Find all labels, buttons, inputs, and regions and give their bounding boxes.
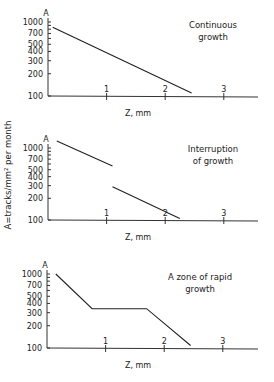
y-tick-label: 500	[28, 40, 43, 49]
y-tick-label: 100	[28, 92, 43, 101]
y-tick-label: 700	[28, 29, 43, 38]
x-axis	[48, 220, 258, 221]
panel-annotation: growth	[185, 284, 215, 294]
x-tick-label: 1	[104, 85, 109, 94]
series-after-interruption	[113, 187, 180, 219]
y-axis-title: A	[43, 135, 49, 144]
chart-panel-1: A1002003004005007001000123Z, mmContinuou…	[23, 9, 258, 118]
x-tick-label: 1	[103, 337, 108, 346]
y-tick-label: 300	[28, 182, 43, 191]
x-tick-label: 3	[220, 337, 225, 346]
y-tick-label: 100	[28, 216, 43, 225]
y-tick-label: 1000	[23, 18, 43, 27]
series-segment-1	[56, 274, 191, 346]
x-tick-label: 2	[162, 337, 167, 346]
x-axis	[48, 96, 258, 97]
series-before-interruption	[57, 141, 113, 166]
x-tick-label: 3	[221, 209, 226, 218]
x-axis-label: Z, mm	[125, 361, 151, 370]
y-tick-label: 1000	[22, 270, 42, 279]
y-axis-title: A	[43, 9, 49, 18]
panel-annotation: growth	[198, 32, 228, 42]
y-tick-label: 100	[27, 344, 42, 353]
panel-annotation: Interruption	[188, 144, 238, 154]
y-tick-label: 500	[28, 166, 43, 175]
x-tick-label: 2	[163, 85, 168, 94]
figure: A=tracks/mm² per month A1002003004005007…	[0, 0, 274, 382]
x-tick-label: 1	[104, 209, 109, 218]
y-tick-label: 200	[28, 194, 43, 203]
y-tick-label: 1000	[23, 144, 43, 153]
y-tick-label: 200	[28, 70, 43, 79]
x-axis-label: Z, mm	[125, 233, 151, 242]
panel-annotation: of growth	[193, 156, 233, 166]
chart-panel-3: A1002003004005007001000123Z, mmA zone of…	[22, 261, 258, 370]
y-axis-title: A	[42, 261, 48, 270]
x-axis	[47, 348, 258, 349]
y-tick-label: 200	[27, 322, 42, 331]
y-tick-label: 700	[28, 155, 43, 164]
series-segment-1	[53, 27, 192, 93]
y-tick-label: 700	[27, 281, 42, 290]
panel-annotation: Continuous	[189, 20, 238, 30]
x-axis-label: Z, mm	[125, 109, 151, 118]
y-axis-label: A=tracks/mm² per month	[3, 121, 13, 230]
y-tick-label: 500	[27, 292, 42, 301]
y-tick-label: 300	[28, 57, 43, 66]
x-tick-label: 3	[221, 85, 226, 94]
y-tick-label: 300	[27, 309, 42, 318]
chart-panel-2: A1002003004005007001000123Z, mmInterrupt…	[23, 135, 258, 242]
panel-annotation: A zone of rapid	[168, 272, 232, 282]
